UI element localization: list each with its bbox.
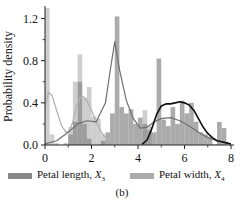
histogram-bar [157, 59, 162, 145]
figure-caption: (b) [0, 186, 244, 198]
histogram-bar [133, 124, 138, 145]
chart-legend: Petal length, X3 Petal width, X4 [0, 168, 244, 184]
histogram-bar [45, 3, 50, 145]
x-tick-label: 4 [135, 151, 141, 165]
histogram-bar [124, 113, 129, 145]
figure-panel: 024680.00.40.81.2Probability density Pet… [0, 0, 244, 205]
histogram-bar [82, 124, 87, 145]
y-tick-label: 1.2 [23, 12, 38, 26]
histogram-bar [87, 139, 92, 145]
histogram-bar [101, 141, 106, 145]
legend-item-petal-length: Petal length, X3 [8, 168, 105, 183]
histogram-bar [175, 124, 180, 145]
histogram-bar [78, 82, 83, 145]
histogram-bar [166, 126, 171, 145]
plot-area [45, 3, 231, 145]
y-tick-label: 0.0 [23, 138, 38, 152]
histogram-bar [194, 122, 199, 145]
histogram-bar [87, 87, 92, 145]
legend-swatch-petal-length [8, 173, 32, 179]
histogram-bar [115, 16, 120, 145]
histogram-bar [171, 107, 176, 145]
histogram-bar [129, 109, 134, 145]
histogram-bar [50, 134, 55, 145]
histogram-bar [138, 118, 143, 145]
y-axis-label: Probability density [1, 31, 15, 122]
legend-swatch-petal-width [130, 173, 154, 179]
histogram-bar [152, 132, 157, 145]
histogram-bar [119, 107, 124, 145]
histogram-bar [161, 120, 166, 145]
y-tick-label: 0.8 [23, 54, 38, 68]
legend-label-petal-length: Petal length, X3 [37, 168, 105, 183]
x-tick-label: 6 [182, 151, 188, 165]
legend-item-petal-width: Petal width, X4 [130, 168, 225, 183]
y-tick-label: 0.4 [23, 96, 38, 110]
histogram-bar [185, 113, 190, 145]
x-tick-label: 2 [89, 151, 95, 165]
histogram-bar [68, 134, 73, 145]
x-tick-label: 8 [228, 151, 234, 165]
legend-label-petal-width: Petal width, X4 [159, 168, 225, 183]
x-tick-label: 0 [42, 151, 48, 165]
